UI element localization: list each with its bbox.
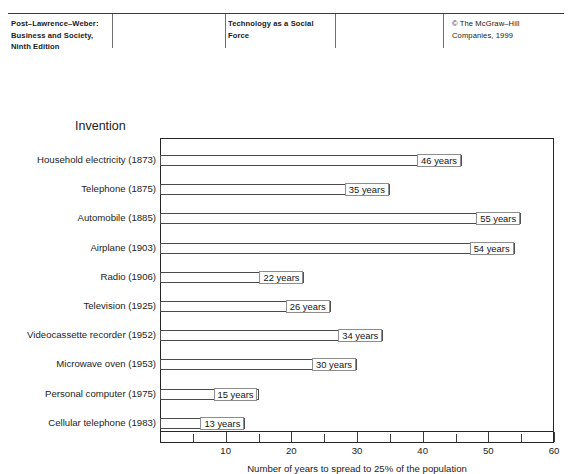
x-axis-major-tick bbox=[554, 432, 555, 442]
x-axis-tick-label: 10 bbox=[220, 445, 231, 456]
category-label: Telephone (1875) bbox=[8, 183, 160, 194]
chart-axis-title-invention: Invention bbox=[75, 119, 126, 133]
x-axis-tick-label: 60 bbox=[549, 445, 560, 456]
category-axis-labels: Household electricity (1873)Telephone (1… bbox=[0, 138, 160, 432]
category-label: Microwave oven (1953) bbox=[8, 358, 160, 369]
category-label: Videocassette recorder (1952) bbox=[8, 329, 160, 340]
header-copyright-line-1: © The McGraw–Hill bbox=[452, 18, 567, 30]
category-label: Automobile (1885) bbox=[8, 212, 160, 223]
x-axis-title: Number of years to spread to 25% of the … bbox=[160, 463, 554, 474]
bar-value-label: 35 years bbox=[345, 183, 389, 196]
x-axis-minor-tick bbox=[259, 434, 260, 442]
header-chapter-title-line-2: Force bbox=[228, 30, 333, 42]
header-book-title: Post–Lawrence–Weber: Business and Societ… bbox=[11, 18, 111, 53]
bar bbox=[160, 213, 521, 224]
header-divider-2 bbox=[225, 14, 226, 48]
x-axis-major-tick bbox=[291, 432, 292, 442]
x-axis-major-tick bbox=[488, 432, 489, 442]
header-chapter-title: Technology as a Social Force bbox=[228, 18, 333, 41]
x-axis-major-tick bbox=[226, 432, 227, 442]
bar-value-label: 34 years bbox=[338, 329, 382, 342]
header-book-title-line-1: Post–Lawrence–Weber: bbox=[11, 18, 111, 30]
header-copyright: © The McGraw–Hill Companies, 1999 bbox=[452, 18, 567, 41]
x-axis-cap-left bbox=[160, 432, 161, 443]
header-chapter-title-line-1: Technology as a Social bbox=[228, 18, 333, 30]
header-divider-1 bbox=[112, 14, 113, 48]
x-axis-tick-label: 50 bbox=[483, 445, 494, 456]
x-axis-major-tick bbox=[357, 432, 358, 442]
header-divider-4 bbox=[443, 14, 444, 48]
bar-series: 46 years35 years55 years54 years22 years… bbox=[160, 138, 554, 432]
x-axis-line bbox=[160, 442, 554, 443]
x-axis-tick-label: 40 bbox=[417, 445, 428, 456]
bar-value-label: 26 years bbox=[286, 300, 330, 313]
x-axis-minor-tick bbox=[390, 434, 391, 442]
x-axis-tick-label: 20 bbox=[286, 445, 297, 456]
category-label: Television (1925) bbox=[8, 300, 160, 311]
x-axis: Number of years to spread to 25% of the … bbox=[160, 432, 554, 472]
header-rule bbox=[8, 13, 564, 14]
category-label: Radio (1906) bbox=[8, 271, 160, 282]
bar-value-label: 54 years bbox=[470, 242, 514, 255]
bar-value-label: 55 years bbox=[476, 212, 520, 225]
category-label: Personal computer (1975) bbox=[8, 388, 160, 399]
x-axis-minor-tick bbox=[193, 434, 194, 442]
bar-value-label: 22 years bbox=[259, 271, 303, 284]
bar-value-label: 15 years bbox=[214, 388, 258, 401]
header-book-title-line-2: Business and Society, bbox=[11, 30, 111, 42]
category-label: Airplane (1903) bbox=[8, 242, 160, 253]
x-axis-minor-tick bbox=[456, 434, 457, 442]
category-label: Cellular telephone (1983) bbox=[8, 417, 160, 428]
x-axis-minor-tick bbox=[521, 434, 522, 442]
book-running-header: Post–Lawrence–Weber: Business and Societ… bbox=[0, 0, 572, 62]
header-book-title-line-3: Ninth Edition bbox=[11, 41, 111, 53]
header-divider-3 bbox=[335, 14, 336, 48]
x-axis-minor-tick bbox=[324, 434, 325, 442]
header-copyright-line-2: Companies, 1999 bbox=[452, 30, 567, 42]
x-axis-tick-label: 30 bbox=[352, 445, 363, 456]
bar-value-label: 13 years bbox=[200, 417, 244, 430]
x-axis-major-tick bbox=[423, 432, 424, 442]
bar-chart: Invention Household electricity (1873)Te… bbox=[0, 100, 572, 472]
bar-value-label: 46 years bbox=[417, 154, 461, 167]
bar bbox=[160, 243, 515, 254]
bar-value-label: 30 years bbox=[312, 358, 356, 371]
category-label: Household electricity (1873) bbox=[8, 154, 160, 165]
